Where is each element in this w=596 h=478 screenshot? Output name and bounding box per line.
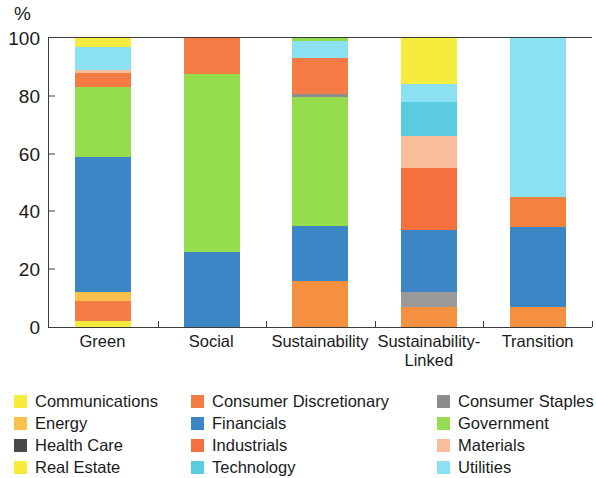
bar-segment[interactable] <box>75 292 131 301</box>
x-axis-category-label: Sustainability <box>266 332 375 370</box>
legend-label: Materials <box>458 437 525 454</box>
stacked-bar[interactable] <box>510 38 566 327</box>
bar-slot <box>483 38 592 327</box>
legend: CommunicationsConsumer DiscretionaryCons… <box>14 390 586 478</box>
bar-segment[interactable] <box>510 197 566 227</box>
bar-segment[interactable] <box>401 307 457 327</box>
stacked-bar-chart: % 020406080100 GreenSocialSustainability… <box>0 0 596 478</box>
legend-color-swatch <box>437 461 450 474</box>
legend-item[interactable]: Consumer Discretionary <box>191 393 437 410</box>
bar-segment[interactable] <box>184 252 240 327</box>
legend-color-swatch <box>437 439 450 452</box>
legend-color-swatch <box>191 461 204 474</box>
bar-slot <box>49 38 158 327</box>
x-axis-category-label-line: Green <box>48 332 157 351</box>
legend-label: Technology <box>212 459 295 476</box>
stacked-bar[interactable] <box>184 38 240 327</box>
legend-item[interactable]: Energy <box>14 415 191 432</box>
legend-color-swatch <box>437 417 450 430</box>
bar-segment[interactable] <box>75 321 131 327</box>
bar-segment[interactable] <box>510 307 566 327</box>
legend-label: Communications <box>35 393 158 410</box>
bar-slot <box>158 38 267 327</box>
legend-label: Financials <box>212 415 286 432</box>
legend-item[interactable]: Technology <box>191 459 437 476</box>
stacked-bar[interactable] <box>292 38 348 327</box>
y-axis-tick-label: 0 <box>29 318 49 337</box>
legend-color-swatch <box>14 461 27 474</box>
x-axis-category-label-line: Linked <box>374 351 483 370</box>
legend-item[interactable]: Industrials <box>191 437 437 454</box>
bar-segment[interactable] <box>292 97 348 226</box>
legend-item[interactable]: Consumer Staples <box>437 393 594 410</box>
bar-segment[interactable] <box>75 38 131 47</box>
legend-color-swatch <box>191 417 204 430</box>
legend-label: Government <box>458 415 549 432</box>
legend-color-swatch <box>191 395 204 408</box>
x-axis-category-label: Transition <box>483 332 592 370</box>
bar-segment[interactable] <box>292 41 348 58</box>
bar-segment[interactable] <box>510 227 566 306</box>
legend-item[interactable]: Financials <box>191 415 437 432</box>
bar-segment[interactable] <box>75 87 131 156</box>
x-axis-category-label: Social <box>157 332 266 370</box>
legend-color-swatch <box>14 439 27 452</box>
x-axis-category-label-line: Sustainability- <box>374 332 483 351</box>
bar-segment[interactable] <box>75 301 131 321</box>
bar-segment[interactable] <box>510 38 566 197</box>
legend-item[interactable]: Utilities <box>437 459 594 476</box>
bar-segment[interactable] <box>401 84 457 101</box>
legend-item[interactable]: Health Care <box>14 437 191 454</box>
x-axis-category-label: Green <box>48 332 157 370</box>
y-axis-tick-label: 80 <box>19 86 49 105</box>
bar-segment[interactable] <box>292 226 348 281</box>
legend-color-swatch <box>437 395 450 408</box>
bar-segment[interactable] <box>401 230 457 292</box>
x-axis-category-labels: GreenSocialSustainabilitySustainability-… <box>48 332 592 370</box>
stacked-bar[interactable] <box>75 38 131 327</box>
legend-color-swatch <box>191 439 204 452</box>
stacked-bar[interactable] <box>401 38 457 327</box>
bar-segment[interactable] <box>401 168 457 230</box>
x-axis-category-label: Sustainability-Linked <box>374 332 483 370</box>
bar-segment[interactable] <box>184 74 240 252</box>
bar-segment[interactable] <box>75 47 131 70</box>
bar-segment[interactable] <box>292 58 348 94</box>
bar-segment[interactable] <box>184 38 240 74</box>
legend-label: Consumer Discretionary <box>212 393 389 410</box>
bars-container <box>49 38 592 327</box>
y-axis-tick-label: 100 <box>8 29 49 48</box>
bar-slot <box>375 38 484 327</box>
bar-segment[interactable] <box>401 292 457 306</box>
bar-segment[interactable] <box>401 38 457 84</box>
legend-label: Utilities <box>458 459 511 476</box>
y-axis-tick-label: 40 <box>19 202 49 221</box>
x-axis-category-label-line: Sustainability <box>266 332 375 351</box>
bar-segment[interactable] <box>75 73 131 87</box>
legend-item[interactable]: Real Estate <box>14 459 191 476</box>
bar-slot <box>266 38 375 327</box>
legend-item[interactable]: Government <box>437 415 594 432</box>
x-axis-tick-mark <box>592 321 593 327</box>
legend-item[interactable]: Materials <box>437 437 594 454</box>
y-axis-unit-label: % <box>14 4 31 23</box>
bar-segment[interactable] <box>292 281 348 327</box>
legend-label: Consumer Staples <box>458 393 594 410</box>
bar-segment[interactable] <box>401 136 457 168</box>
legend-label: Health Care <box>35 437 123 454</box>
plot-area: 020406080100 <box>48 37 592 328</box>
bar-segment[interactable] <box>401 102 457 137</box>
x-axis-category-label-line: Transition <box>483 332 592 351</box>
x-axis-category-label-line: Social <box>157 332 266 351</box>
legend-label: Energy <box>35 415 87 432</box>
bar-segment[interactable] <box>75 157 131 293</box>
y-axis-tick-label: 60 <box>19 144 49 163</box>
legend-item[interactable]: Communications <box>14 393 191 410</box>
legend-label: Industrials <box>212 437 287 454</box>
legend-label: Real Estate <box>35 459 120 476</box>
legend-color-swatch <box>14 417 27 430</box>
y-axis-tick-label: 20 <box>19 260 49 279</box>
legend-color-swatch <box>14 395 27 408</box>
